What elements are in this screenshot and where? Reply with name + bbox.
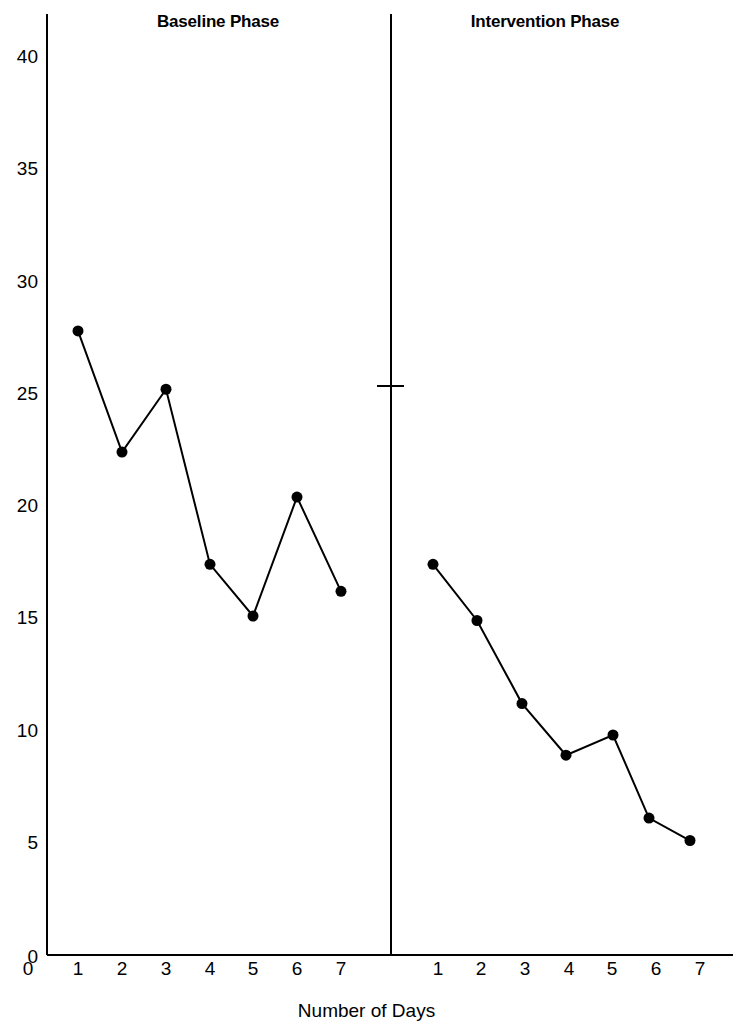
baseline-point: [161, 384, 172, 395]
baseline-point: [205, 559, 216, 570]
x-axis-tick-label: 7: [329, 958, 353, 980]
baseline-point: [336, 586, 347, 597]
x-axis-tick-label: 2: [110, 958, 134, 980]
baseline-line: [78, 331, 341, 616]
x-axis-tick-label: 6: [285, 958, 309, 980]
x-axis-tick-label: 6: [644, 958, 668, 980]
series-baseline: [73, 325, 347, 621]
phase-divider: [377, 14, 404, 955]
series-intervention: [428, 559, 696, 846]
x-axis-tick-label: 3: [154, 958, 178, 980]
plot-area: [0, 0, 733, 1035]
x-axis-tick-label: 4: [198, 958, 222, 980]
intervention-point: [428, 559, 439, 570]
y-axis-tick-label: 10: [4, 720, 38, 742]
y-axis-tick-label: 5: [4, 832, 38, 854]
x-axis-origin-label: 0: [16, 958, 40, 980]
intervention-point: [685, 835, 696, 846]
x-axis-tick-label: 3: [513, 958, 537, 980]
y-axis-tick-label: 20: [4, 495, 38, 517]
y-axis-tick-label: 35: [4, 158, 38, 180]
intervention-point: [561, 750, 572, 761]
intervention-point: [608, 729, 619, 740]
y-axis-tick-label: 30: [4, 271, 38, 293]
baseline-point: [292, 492, 303, 503]
x-axis-tick-label: 1: [66, 958, 90, 980]
intervention-point: [472, 615, 483, 626]
y-axis-tick-label: 40: [4, 46, 38, 68]
baseline-point: [73, 325, 84, 336]
baseline-point: [117, 447, 128, 458]
intervention-point: [644, 813, 655, 824]
x-axis-tick-label: 5: [241, 958, 265, 980]
baseline-point: [248, 611, 259, 622]
x-axis-tick-label: 4: [557, 958, 581, 980]
intervention-point: [517, 698, 528, 709]
x-axis-tick-label: 2: [469, 958, 493, 980]
single-case-design-chart: Baseline Phase Intervention Phase 051015…: [0, 0, 733, 1035]
y-axis-tick-label: 15: [4, 607, 38, 629]
x-axis-tick-label: 1: [426, 958, 450, 980]
x-axis-title: Number of Days: [298, 1000, 435, 1022]
y-axis-tick-label: 25: [4, 383, 38, 405]
x-axis-tick-label: 7: [688, 958, 712, 980]
intervention-line: [433, 564, 690, 840]
x-axis-tick-label: 5: [600, 958, 624, 980]
